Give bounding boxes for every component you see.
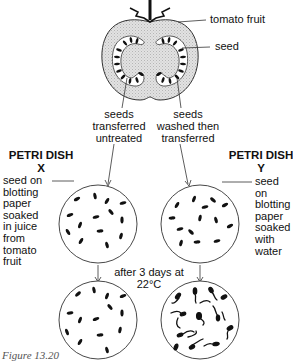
incubation-condition-label: after 3 days at 22°C: [108, 266, 190, 290]
petri-dish-x-initial: [59, 185, 137, 263]
arrow-dish-x-result: [95, 265, 101, 282]
tomato-fruit-illustration: [102, 0, 198, 100]
petri-dish-x-title: PETRI DISH X: [6, 149, 76, 175]
transfer-washed-label: seeds washed then transferred: [152, 108, 224, 144]
label-tomato-fruit: tomato fruit: [210, 13, 265, 25]
diagram-canvas: [0, 0, 293, 362]
arrow-to-dish-x: [105, 144, 114, 186]
petri-dish-x-result: [59, 281, 137, 359]
transfer-untreated-label: seeds transferred untreated: [86, 108, 152, 144]
dish-x-description: seed on blotting paper soaked in juice f…: [3, 175, 42, 268]
arrow-dish-y-result: [197, 265, 203, 282]
arrow-to-dish-y: [180, 144, 191, 186]
petri-dish-y-title: PETRI DISH Y: [226, 149, 293, 175]
petri-dish-y-initial: [161, 185, 239, 263]
label-seed: seed: [215, 40, 239, 52]
tomato-fruit-leader: [178, 20, 206, 22]
dish-y-description: seed on blotting paper soaked with water: [255, 176, 293, 257]
figure-caption: Figure 13.20: [2, 349, 59, 361]
petri-dish-y-result: [161, 281, 239, 359]
